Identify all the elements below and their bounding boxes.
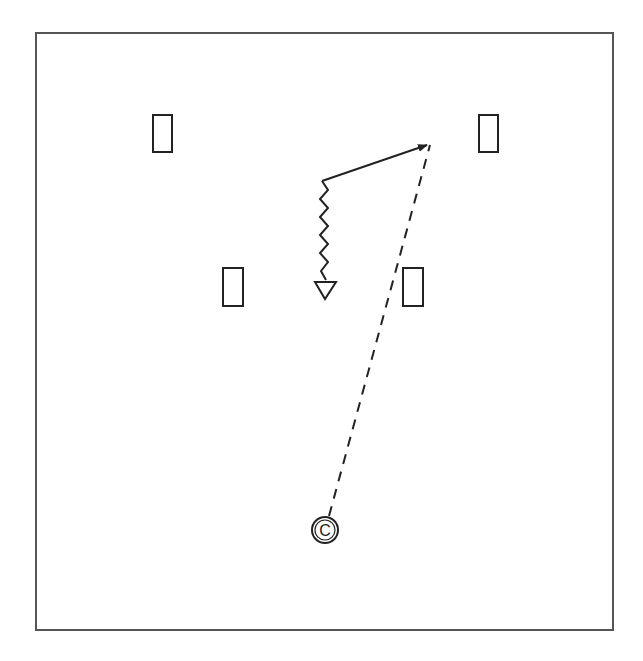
play-diagram: C (0, 0, 643, 661)
dribble-zigzag-path (320, 181, 328, 280)
center-label: C (319, 522, 331, 539)
center-player-marker: C (312, 517, 338, 543)
player-2-marker (479, 115, 498, 152)
cut-arrow (322, 145, 427, 181)
pass-path-dashed (329, 145, 430, 516)
defender-triangle-icon (315, 282, 336, 299)
player-4-marker (403, 268, 423, 306)
player-3-marker (223, 268, 243, 306)
player-1-marker (153, 115, 172, 152)
